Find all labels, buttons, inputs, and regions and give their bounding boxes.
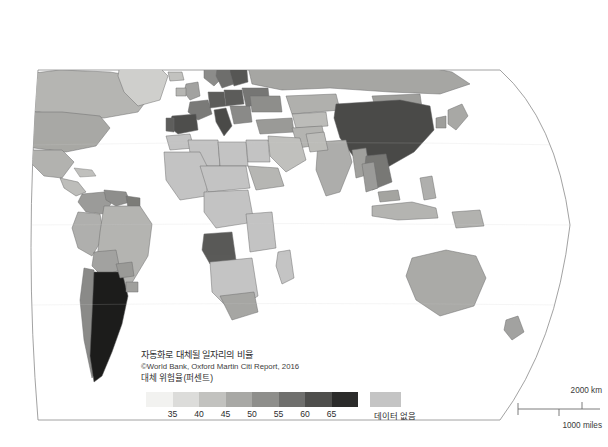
region-central-asia <box>292 112 328 128</box>
country-finland <box>230 60 248 86</box>
region-sahel <box>200 166 250 192</box>
legend-swatch-6 <box>305 392 332 407</box>
legend-tick-45: 45 <box>221 409 231 419</box>
legend-gap <box>358 392 370 407</box>
legend-swatch-0 <box>146 392 173 407</box>
legend-tick-60: 60 <box>300 409 310 419</box>
world-map-figure: 자동화로 대체될 일자리의 비율 ©World Bank, Oxford Mar… <box>0 0 608 447</box>
legend-text-block: 자동화로 대체될 일자리의 비율 ©World Bank, Oxford Mar… <box>141 349 391 386</box>
scale-miles-label: 1000 miles <box>562 421 602 430</box>
country-papua-new-guinea <box>452 210 484 228</box>
region-balkans <box>230 106 252 124</box>
legend-tick-40: 40 <box>194 409 204 419</box>
country-ukraine <box>250 96 282 112</box>
country-turkey <box>256 118 294 134</box>
country-poland <box>224 90 244 106</box>
scale-km-label: 2000 km <box>571 386 602 395</box>
legend-source: ©World Bank, Oxford Martin Citi Report, … <box>141 361 391 372</box>
legend-no-data-swatch <box>370 392 401 407</box>
country-germany <box>208 92 226 108</box>
legend-tick-65: 65 <box>327 409 337 419</box>
country-angola <box>202 232 236 264</box>
region-central-africa <box>204 190 254 228</box>
country-united-states <box>12 112 110 152</box>
region-east-africa <box>246 212 276 252</box>
legend-swatch-3 <box>226 392 253 407</box>
legend-swatch-5 <box>279 392 306 407</box>
country-russia <box>246 58 470 94</box>
country-libya <box>218 142 248 166</box>
legend-swatches <box>146 392 358 407</box>
country-ireland <box>176 88 186 96</box>
legend-swatch-1 <box>173 392 200 407</box>
legend-swatch-2 <box>199 392 226 407</box>
scale-bar-graphic <box>516 398 602 420</box>
legend-tick-55: 55 <box>274 409 284 419</box>
country-south-korea <box>436 116 446 128</box>
country-pakistan <box>306 132 328 152</box>
country-uruguay <box>126 282 138 292</box>
country-malaysia <box>378 190 400 202</box>
legend-swatch-7 <box>332 392 359 407</box>
legend-tick-50: 50 <box>247 409 257 419</box>
legend-tick-35: 35 <box>168 409 178 419</box>
legend-no-data-label: 데이터 없음 <box>374 409 416 421</box>
legend-color-ramp <box>146 392 401 407</box>
country-egypt <box>246 140 270 162</box>
scale-bar: 2000 km 1000 miles <box>516 386 602 430</box>
legend-title: 자동화로 대체될 일자리의 비율 <box>141 349 391 361</box>
legend-swatch-4 <box>252 392 279 407</box>
country-portugal <box>166 118 174 132</box>
country-iceland <box>168 72 184 81</box>
legend-unit-label: 대체 위험율(퍼센트) <box>141 372 391 384</box>
